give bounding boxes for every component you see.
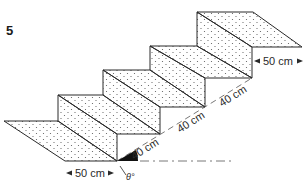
bottom-landing-width-label: 50 cm xyxy=(75,167,105,179)
slope-segment-label-2: 40 cm xyxy=(175,109,207,135)
top-landing-width-label: 50 cm xyxy=(263,55,293,67)
arrow-left-icon xyxy=(66,171,72,176)
arrow-left-icon xyxy=(254,59,260,64)
staircase-figure: θ° 50 cm 50 cm 40 cm 40 cm 40 cm 5 xyxy=(0,0,306,182)
slope-segment-label-1: 40 cm xyxy=(129,136,161,162)
figure-number: 5 xyxy=(6,23,13,38)
arrow-right-icon xyxy=(297,59,303,64)
arrow-right-icon xyxy=(108,171,114,176)
angle-label: θ° xyxy=(126,172,135,182)
slope-segment-label-3: 40 cm xyxy=(217,83,249,109)
staircase-diagram: θ° 50 cm 50 cm 40 cm 40 cm 40 cm xyxy=(0,0,306,182)
